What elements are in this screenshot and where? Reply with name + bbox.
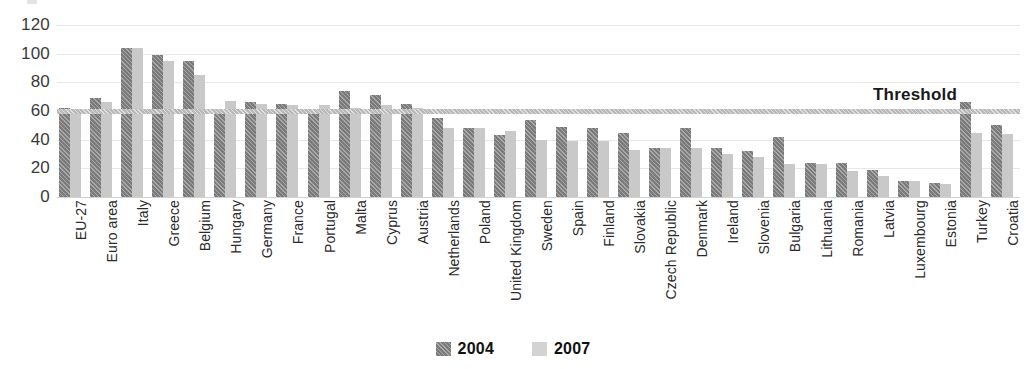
- x-tick-label: Bulgaria: [788, 200, 802, 252]
- bar-chart: 020406080100120 Threshold EU-27Euro area…: [0, 0, 1026, 369]
- legend-label-2004: 2004: [458, 340, 494, 358]
- legend-swatch-2007: [532, 342, 547, 356]
- x-tick-label: Finland: [602, 200, 616, 247]
- bar-2007: [70, 111, 81, 197]
- bar-2007: [940, 184, 951, 197]
- x-tick-label: Cyprus: [385, 200, 399, 245]
- x-tick-label: Sweden: [540, 200, 554, 251]
- legend-item-2007: 2007: [532, 340, 590, 358]
- bar-2007: [784, 164, 795, 197]
- bar-2007: [443, 128, 454, 197]
- bar-2004: [742, 151, 753, 197]
- bar-2007: [381, 105, 392, 197]
- bar-2007: [225, 101, 236, 197]
- bar-2004: [401, 104, 412, 197]
- y-tick-label-80: 80: [31, 72, 50, 92]
- x-tick-label: Turkey: [975, 200, 989, 243]
- bar-2007: [909, 181, 920, 197]
- bar-2004: [618, 133, 629, 198]
- x-tick-label: Austria: [416, 200, 430, 244]
- y-tick-label-20: 20: [31, 158, 50, 178]
- bar-2007: [567, 141, 578, 197]
- bar-2004: [339, 91, 350, 197]
- x-tick-label: Spain: [571, 200, 585, 236]
- bar-2007: [287, 105, 298, 197]
- bar-2007: [256, 104, 267, 197]
- x-tick-label: Hungary: [229, 200, 243, 254]
- x-tick-label: Croatia: [1006, 200, 1020, 246]
- bar-2004: [649, 148, 660, 197]
- bar-2007: [194, 75, 205, 197]
- y-tick-label-120: 120: [21, 15, 50, 35]
- legend-swatch-2004: [436, 342, 451, 356]
- x-tick-label: Malta: [354, 200, 368, 235]
- bar-2004: [525, 120, 536, 197]
- x-tick-label: EU-27: [74, 200, 88, 240]
- x-tick-label: France: [291, 200, 305, 244]
- bar-2007: [722, 154, 733, 197]
- bar-2004: [308, 111, 319, 197]
- x-tick-label: Lithuania: [820, 200, 834, 258]
- bar-2007: [878, 176, 889, 198]
- bar-2007: [816, 164, 827, 197]
- x-tick-label: Denmark: [695, 200, 709, 258]
- bar-2004: [711, 148, 722, 197]
- bar-2004: [991, 125, 1002, 197]
- y-tick-label-40: 40: [31, 130, 50, 150]
- bar-2004: [276, 104, 287, 197]
- x-tick-label: Latvia: [882, 200, 896, 238]
- bar-2004: [680, 128, 691, 197]
- legend-item-2004: 2004: [436, 340, 494, 358]
- bar-2004: [836, 163, 847, 197]
- y-tick-label-100: 100: [21, 44, 50, 64]
- x-tick-label: Euro area: [105, 200, 119, 262]
- x-tick-label: Germany: [260, 200, 274, 258]
- bar-2007: [505, 131, 516, 197]
- threshold-label: Threshold: [873, 85, 957, 105]
- bar-2007: [753, 157, 764, 197]
- x-tick-label: Belgium: [198, 200, 212, 251]
- x-tick-label: Portugal: [323, 200, 337, 253]
- bar-2004: [121, 48, 132, 197]
- bar-2007: [691, 148, 702, 197]
- x-tick-label: Luxembourg: [913, 200, 927, 279]
- bar-2004: [152, 55, 163, 197]
- bar-2007: [319, 105, 330, 197]
- y-tick-label-60: 60: [31, 101, 50, 121]
- bar-2007: [412, 108, 423, 197]
- x-tick-label: Netherlands: [447, 200, 461, 277]
- bar-2007: [101, 102, 112, 197]
- bar-2004: [183, 61, 194, 197]
- x-axis: EU-27Euro areaItalyGreeceBelgiumHungaryG…: [57, 200, 1020, 330]
- bar-2004: [960, 102, 971, 197]
- bar-2007: [660, 148, 671, 197]
- bar-2004: [773, 137, 784, 197]
- x-tick-label: Estonia: [944, 200, 958, 247]
- bar-2004: [556, 127, 567, 197]
- bar-2007: [971, 133, 982, 198]
- bar-2007: [536, 140, 547, 197]
- x-tick-label: Slovenia: [757, 200, 771, 255]
- bar-2004: [59, 108, 70, 197]
- x-tick-label: United Kingdom: [509, 200, 523, 301]
- legend-label-2007: 2007: [554, 340, 590, 358]
- bar-2007: [474, 128, 485, 197]
- bar-2007: [132, 48, 143, 197]
- x-tick-label: Poland: [478, 200, 492, 244]
- bar-2007: [847, 171, 858, 197]
- bar-2004: [805, 163, 816, 197]
- bar-2004: [245, 102, 256, 197]
- y-axis: 020406080100120: [0, 25, 50, 197]
- x-tick-label: Italy: [136, 200, 150, 226]
- bar-2004: [898, 181, 909, 197]
- bar-2004: [587, 128, 598, 197]
- bar-2004: [929, 183, 940, 197]
- x-tick-label: Greece: [167, 200, 181, 247]
- bar-2007: [350, 108, 361, 197]
- gridline-0: [57, 197, 1020, 198]
- bar-2004: [214, 112, 225, 197]
- bar-2004: [494, 135, 505, 197]
- x-tick-label: Czech Republic: [664, 200, 678, 299]
- bar-2007: [1002, 134, 1013, 197]
- threshold-line: [57, 109, 1020, 114]
